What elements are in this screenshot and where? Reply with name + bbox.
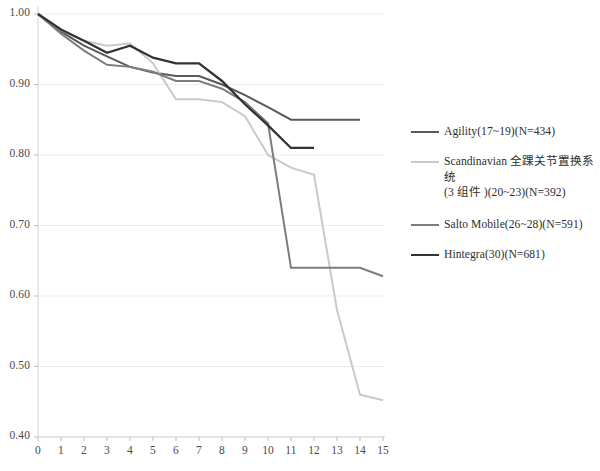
legend-line-swatch — [411, 224, 439, 226]
x-tick-label: 2 — [72, 444, 96, 456]
legend-line-swatch — [411, 131, 439, 133]
y-tick-label: 0.70 — [0, 218, 30, 230]
x-tick-label: 6 — [164, 444, 188, 456]
legend-entry-3: Hintegra(30)(N=681) — [411, 247, 597, 263]
series-line-2 — [38, 14, 383, 276]
y-tick-label: 0.90 — [0, 77, 30, 89]
legend-entry-0: Agility(17~19)(N=434) — [411, 124, 597, 140]
chart-legend: Agility(17~19)(N=434)Scandinavian 全踝关节置换… — [411, 124, 597, 277]
x-tick-label: 15 — [371, 444, 395, 456]
y-tick-label: 0.50 — [0, 359, 30, 371]
x-tick-label: 0 — [26, 444, 50, 456]
x-tick-label: 5 — [141, 444, 165, 456]
x-tick-label: 10 — [256, 444, 280, 456]
legend-label: Agility(17~19)(N=434) — [444, 124, 597, 140]
x-tick-label: 9 — [233, 444, 257, 456]
x-tick-label: 12 — [302, 444, 326, 456]
y-tick-label: 0.80 — [0, 147, 30, 159]
x-tick-label: 14 — [348, 444, 372, 456]
x-tick-label: 13 — [325, 444, 349, 456]
x-tick-label: 3 — [95, 444, 119, 456]
x-tick-label: 7 — [187, 444, 211, 456]
legend-label: Scandinavian 全踝关节置换系统(3 组件 )(20~23)(N=39… — [444, 154, 597, 201]
legend-line-swatch — [411, 254, 439, 256]
x-tick-label: 1 — [49, 444, 73, 456]
y-tick-label: 0.40 — [0, 429, 30, 441]
x-tick-label: 8 — [210, 444, 234, 456]
legend-label: Hintegra(30)(N=681) — [444, 247, 597, 263]
series-line-0 — [38, 14, 360, 120]
x-tick-label: 11 — [279, 444, 303, 456]
survival-curve-figure: 1.000.900.800.700.600.500.40 01234567891… — [0, 0, 600, 471]
y-tick-label: 0.60 — [0, 288, 30, 300]
legend-entry-2: Salto Mobile(26~28)(N=591) — [411, 217, 597, 233]
legend-label: Salto Mobile(26~28)(N=591) — [444, 217, 597, 233]
y-tick-label: 1.00 — [0, 6, 30, 18]
x-tick-label: 4 — [118, 444, 142, 456]
legend-line-swatch — [411, 161, 439, 163]
legend-entry-1: Scandinavian 全踝关节置换系统(3 组件 )(20~23)(N=39… — [411, 154, 597, 201]
